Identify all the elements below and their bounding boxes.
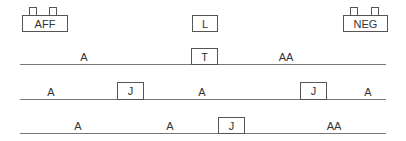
neg-box: NEG [343, 15, 388, 32]
row1-t-box: T [191, 48, 218, 65]
l-box: L [192, 15, 218, 32]
row2-label-a2: A [198, 86, 205, 98]
row3-label-aa: AA [327, 120, 342, 132]
row1-label-a: A [80, 51, 87, 63]
row2-label-a1: A [47, 86, 54, 98]
aff-box: AFF [22, 15, 68, 32]
row3-label-a2: A [166, 120, 173, 132]
row2-line [20, 99, 386, 100]
row3-line [20, 133, 386, 134]
row2-j-box-1: J [117, 82, 144, 100]
row2-label-a3: A [364, 86, 371, 98]
row3-label-a1: A [74, 120, 81, 132]
row2-j-box-2: J [300, 82, 327, 100]
row3-j-box: J [218, 117, 245, 134]
row1-label-aa: AA [279, 51, 294, 63]
